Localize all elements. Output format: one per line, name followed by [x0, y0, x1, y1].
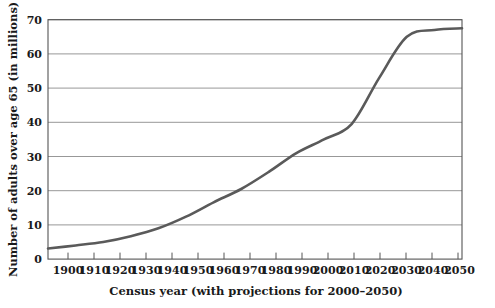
ytick-label-0: 0: [34, 253, 42, 266]
ytick-label-50: 50: [27, 82, 43, 95]
ytick-label-60: 60: [27, 48, 43, 61]
ytick-label-40: 40: [27, 116, 43, 129]
chart-figure: 70 60 50 40 30 20 10 0 1900 1910 1920 19…: [0, 0, 495, 308]
chart-background: [0, 0, 495, 308]
ytick-label-30: 30: [27, 151, 43, 164]
ytick-label-10: 10: [27, 219, 43, 232]
x-tick-labels: 1900 1910 1920 1930 1940 1950 1960 1970 …: [53, 264, 475, 277]
ytick-label-20: 20: [27, 185, 43, 198]
y-axis-title: Number of adults over age 65 (in million…: [6, 2, 20, 277]
x-axis-title: Census year (with projections for 2000–2…: [109, 284, 402, 298]
line-chart: 70 60 50 40 30 20 10 0 1900 1910 1920 19…: [0, 0, 495, 308]
ytick-label-70: 70: [27, 14, 43, 27]
xtick-label-2050: 2050: [444, 264, 475, 277]
